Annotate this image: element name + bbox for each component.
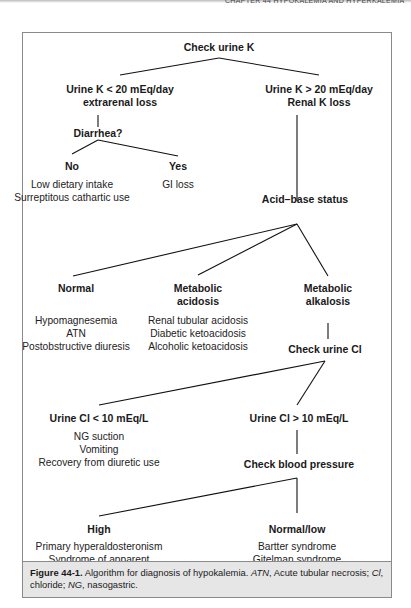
node-metabolic-acidosis: Metabolic acidosis bbox=[174, 282, 222, 308]
node-metabolic-alkalosis: Metabolic alkalosis bbox=[304, 282, 352, 308]
node-urine-k-high: Urine K > 20 mEq/day Renal K loss bbox=[265, 83, 373, 109]
node-urine-cl-high: Urine Cl > 10 mEq/L bbox=[250, 412, 349, 425]
caption-abbr-ng: NG bbox=[68, 579, 82, 590]
node-check-urine-k: Check urine K bbox=[184, 41, 255, 54]
caption-abbr-atn: ATN bbox=[251, 567, 269, 578]
node-metabolic-acidosis-line2: acidosis bbox=[174, 295, 222, 308]
cause-item: Recovery from diuretic use bbox=[38, 456, 159, 469]
list-acidosis-causes: Renal tubular acidosis Diabetic ketoacid… bbox=[148, 314, 248, 354]
caption-text: , Acute tubular necrosis; bbox=[269, 567, 372, 578]
cause-item: Hypomagnesemia bbox=[22, 314, 130, 327]
node-urine-k-high-line1: Urine K > 20 mEq/day bbox=[265, 83, 373, 96]
cause-item: Postobstructive diuresis bbox=[22, 340, 130, 353]
node-urine-k-low-line1: Urine K < 20 mEq/day bbox=[66, 83, 174, 96]
cause-item: Low dietary intake bbox=[14, 178, 130, 191]
node-diarrhea-no: No bbox=[65, 160, 79, 173]
list-diarrhea-yes-causes: GI loss bbox=[162, 178, 194, 191]
running-head: CHAPTER 44 HYPOKALEMIA AND HYPERKALEMIA bbox=[225, 0, 405, 4]
figure-label: Figure 44-1. bbox=[30, 567, 83, 578]
caption-abbr-cl: Cl bbox=[372, 567, 381, 578]
node-metabolic-alkalosis-line1: Metabolic bbox=[304, 282, 352, 295]
node-diarrhea-yes: Yes bbox=[169, 160, 187, 173]
cause-item: Bartter syndrome bbox=[253, 540, 341, 553]
figure-caption: Figure 44-1. Algorithm for diagnosis of … bbox=[23, 561, 391, 597]
cause-item: Surreptitous cathartic use bbox=[14, 191, 130, 204]
cause-item: Renal tubular acidosis bbox=[148, 314, 248, 327]
cause-item: Alcoholic ketoacidosis bbox=[148, 340, 248, 353]
node-metabolic-acidosis-line1: Metabolic bbox=[174, 282, 222, 295]
list-normal-causes: Hypomagnesemia ATN Postobstructive diure… bbox=[22, 314, 130, 354]
cause-item: ATN bbox=[22, 327, 130, 340]
caption-text: , nasogastric. bbox=[82, 579, 138, 590]
node-urine-cl-low: Urine Cl < 10 mEq/L bbox=[50, 412, 149, 425]
list-urine-cl-low-causes: NG suction Vomiting Recovery from diuret… bbox=[38, 430, 159, 470]
node-bp-high: High bbox=[87, 523, 110, 536]
cause-item: Vomiting bbox=[38, 443, 159, 456]
node-check-urine-cl: Check urine Cl bbox=[288, 343, 362, 356]
cause-item: Diabetic ketoacidosis bbox=[148, 327, 248, 340]
node-metabolic-alkalosis-line2: alkalosis bbox=[304, 295, 352, 308]
node-normal: Normal bbox=[58, 282, 94, 295]
node-urine-k-high-line2: Renal K loss bbox=[265, 96, 373, 109]
node-diarrhea: Diarrhea? bbox=[73, 127, 122, 140]
list-diarrhea-no-causes: Low dietary intake Surreptitous catharti… bbox=[14, 178, 130, 204]
caption-text: Algorithm for diagnosis of hypokalemia. bbox=[83, 567, 251, 578]
cause-item: GI loss bbox=[162, 178, 194, 191]
cause-item: Primary hyperaldosteronism bbox=[36, 540, 163, 553]
node-bp-normal-low: Normal/low bbox=[269, 523, 326, 536]
node-urine-k-low-line2: extrarenal loss bbox=[66, 96, 174, 109]
node-urine-k-low: Urine K < 20 mEq/day extrarenal loss bbox=[66, 83, 174, 109]
node-acid-base-status: Acid–base status bbox=[262, 193, 348, 206]
figure-frame: Check urine K Urine K < 20 mEq/day extra… bbox=[22, 32, 392, 598]
cause-item: NG suction bbox=[38, 430, 159, 443]
node-check-blood-pressure: Check blood pressure bbox=[244, 458, 354, 471]
